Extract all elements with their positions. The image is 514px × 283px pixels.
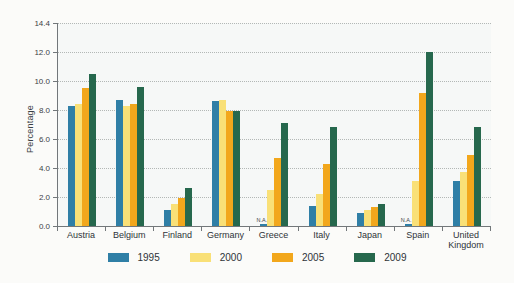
bar-germany-1995 xyxy=(212,101,219,226)
legend-label: 2000 xyxy=(220,252,242,263)
bar-germany-2005 xyxy=(226,111,233,226)
bar-group-belgium xyxy=(106,23,154,226)
na-stub xyxy=(260,224,267,226)
x-tick-label-germany: Germany xyxy=(201,230,249,250)
na-label: N.A. xyxy=(256,217,267,223)
bar-finland-2009 xyxy=(185,188,192,226)
legend-item-1995: 1995 xyxy=(108,252,160,263)
bar-group-japan xyxy=(347,23,395,226)
legend-label: 1995 xyxy=(138,252,160,263)
bar-germany-2009 xyxy=(233,111,240,226)
bar-japan-2000 xyxy=(364,210,371,226)
bar-finland-2005 xyxy=(178,198,185,226)
x-tick-label-italy: Italy xyxy=(298,230,346,250)
bar-united-kingdom-1995 xyxy=(453,181,460,226)
x-tick-label-austria: Austria xyxy=(57,230,105,250)
y-tick-label: 2.0 xyxy=(0,193,50,202)
x-tick-label-belgium: Belgium xyxy=(105,230,153,250)
x-tick-label-japan: Japan xyxy=(346,230,394,250)
bar-group-italy xyxy=(299,23,347,226)
bar-group-spain: N.A. xyxy=(395,23,443,226)
legend-item-2000: 2000 xyxy=(190,252,242,263)
bar-belgium-2000 xyxy=(123,106,130,226)
bar-austria-2000 xyxy=(75,104,82,226)
bar-group-greece: N.A. xyxy=(250,23,298,226)
bar-group-united-kingdom xyxy=(443,23,491,226)
legend-item-2009: 2009 xyxy=(354,252,406,263)
x-tick-label-greece: Greece xyxy=(249,230,297,250)
y-tick-label: 0.0 xyxy=(0,222,50,231)
bar-finland-1995 xyxy=(164,210,171,226)
x-tick-mark xyxy=(490,227,491,231)
bar-spain-2005 xyxy=(419,93,426,226)
bar-spain-2000 xyxy=(412,181,419,226)
bar-austria-2009 xyxy=(89,74,96,226)
bar-group-austria xyxy=(58,23,106,226)
x-tick-label-united-kingdom: United Kingdom xyxy=(442,230,490,250)
bar-japan-2009 xyxy=(378,204,385,226)
legend-swatch-2000 xyxy=(190,253,211,262)
y-tick-label: 6.0 xyxy=(0,135,50,144)
x-axis-labels: AustriaBelgiumFinlandGermanyGreeceItalyJ… xyxy=(57,230,490,250)
plot-area: N.A.N.A. xyxy=(57,23,491,227)
bar-greece-2005 xyxy=(274,158,281,226)
bar-united-kingdom-2009 xyxy=(474,127,481,226)
bar-belgium-2009 xyxy=(137,87,144,226)
y-tick-label: 14.4 xyxy=(0,19,50,28)
bar-japan-1995 xyxy=(357,213,364,226)
bar-austria-2005 xyxy=(82,88,89,226)
x-tick-label-spain: Spain xyxy=(394,230,442,250)
legend-item-2005: 2005 xyxy=(272,252,324,263)
na-label: N.A. xyxy=(401,217,412,223)
bar-italy-1995 xyxy=(309,206,316,226)
bar-greece-2000 xyxy=(267,190,274,226)
bar-germany-2000 xyxy=(219,100,226,226)
bar-spain-2009 xyxy=(426,52,433,226)
legend-label: 2009 xyxy=(384,252,406,263)
bar-greece-2009 xyxy=(281,123,288,226)
bar-belgium-1995 xyxy=(116,100,123,226)
bar-italy-2009 xyxy=(330,127,337,226)
legend-swatch-2005 xyxy=(272,253,293,262)
y-tick-label: 10.0 xyxy=(0,77,50,86)
na-stub xyxy=(405,224,412,226)
bar-group-germany xyxy=(202,23,250,226)
y-tick-label: 8.0 xyxy=(0,106,50,115)
bar-italy-2000 xyxy=(316,194,323,226)
bar-belgium-2005 xyxy=(130,104,137,226)
bar-italy-2005 xyxy=(323,164,330,226)
legend-swatch-2009 xyxy=(354,253,375,262)
bar-finland-2000 xyxy=(171,204,178,226)
bar-chart-figure: Percentage 14.412.010.08.06.04.02.00.0 N… xyxy=(0,0,514,283)
legend-label: 2005 xyxy=(302,252,324,263)
legend-swatch-1995 xyxy=(108,253,129,262)
y-tick-label: 12.0 xyxy=(0,48,50,57)
y-tick-label: 4.0 xyxy=(0,164,50,173)
x-tick-label-finland: Finland xyxy=(153,230,201,250)
bar-japan-2005 xyxy=(371,207,378,226)
bar-austria-1995 xyxy=(68,106,75,226)
bar-group-finland xyxy=(154,23,202,226)
legend: 1995200020052009 xyxy=(0,252,514,263)
bar-united-kingdom-2000 xyxy=(460,172,467,226)
bar-united-kingdom-2005 xyxy=(467,155,474,226)
